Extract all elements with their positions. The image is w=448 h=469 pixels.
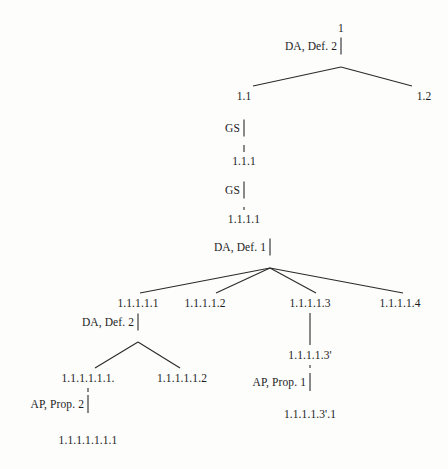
inference-rule-label: AP, Prop. 1 — [252, 376, 306, 388]
tree-node-label: 1.1.1.1.3'.1 — [284, 408, 336, 420]
tree-edge — [270, 268, 403, 293]
tree-edge — [341, 67, 412, 86]
tree-node-label: 1.1.1 — [232, 155, 256, 167]
tree-node-label: 1.1 — [237, 90, 252, 102]
tree-edge — [138, 342, 180, 368]
tree-node-label: 1.1.1.1 — [228, 213, 260, 225]
tree-node-label: 1.1.1.1.1 — [117, 297, 158, 309]
edge-group — [88, 67, 412, 392]
tree-node-label: 1.1.1.1.2 — [184, 297, 225, 309]
tree-edge — [216, 268, 270, 293]
tree-node-label: 1.1.1.1.3' — [288, 349, 331, 361]
inference-rule-label: DA, Def. 1 — [214, 241, 266, 253]
tree-edge — [270, 268, 316, 293]
inference-rule-label: DA, Def. 2 — [285, 40, 337, 52]
tree-node-label: 1.1.1.1.4 — [379, 297, 420, 309]
proof-tree-figure: DA, Def. 2GSGSDA, Def. 1DA, Def. 2AP, Pr… — [0, 0, 448, 469]
inference-rule-label: GS — [225, 184, 240, 196]
tree-node-label: 1.1.1.1.1.2 — [157, 372, 207, 384]
tree-node-label: 1.1.1.1.1.1.1 — [59, 434, 118, 446]
tree-node-label: 1.1.1.1.1.1. — [62, 372, 115, 384]
inference-rule-label: GS — [225, 122, 240, 134]
tree-node-label: 1.2 — [417, 90, 432, 102]
inference-rule-label: DA, Def. 2 — [82, 316, 134, 328]
tree-node-label: 1 — [338, 22, 344, 34]
tree-edge — [95, 342, 138, 368]
tree-edge — [140, 268, 270, 293]
tree-node-label: 1.1.1.1.3 — [289, 297, 330, 309]
tree-edge — [253, 67, 341, 86]
inference-rule-label: AP, Prop. 2 — [30, 398, 84, 410]
